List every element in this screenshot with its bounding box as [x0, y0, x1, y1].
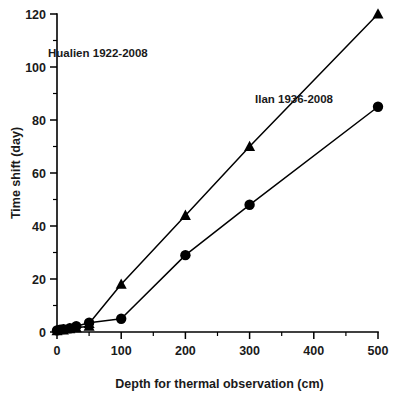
y-tick-label: 0: [39, 326, 46, 340]
series-annotation-ilan: Ilan 1936-2008: [255, 93, 334, 105]
y-axis-title: Time shift (day): [9, 127, 23, 219]
data-point-triangle: [372, 8, 383, 18]
chart-figure: 0204060801001200100200300400500 Ilan 193…: [0, 0, 395, 401]
series-line-circle: [57, 107, 378, 331]
y-tick-label: 40: [32, 220, 46, 234]
series-annotation-hualien: Hualien 1922-2008: [48, 47, 148, 59]
y-tick-label: 80: [32, 114, 46, 128]
x-tick-label: 400: [303, 344, 324, 358]
data-point-circle: [373, 102, 383, 112]
x-tick-label: 200: [175, 344, 196, 358]
y-tick-label: 60: [32, 167, 46, 181]
y-tick-label: 120: [25, 8, 46, 22]
x-tick-label: 300: [239, 344, 260, 358]
data-point-circle: [180, 250, 190, 260]
y-tick-label: 100: [25, 61, 46, 75]
data-point-circle: [116, 314, 126, 324]
data-point-circle: [84, 318, 94, 328]
x-tick-label: 100: [111, 344, 132, 358]
data-point-circle: [244, 200, 254, 210]
chart-plot-area: 0204060801001200100200300400500 Ilan 193…: [0, 0, 395, 401]
series-line-triangle: [57, 14, 378, 331]
x-axis-title: Depth for thermal observation (cm): [115, 377, 323, 391]
x-tick-label: 500: [368, 344, 389, 358]
y-tick-label: 20: [32, 273, 46, 287]
data-point-circle: [71, 321, 81, 331]
x-tick-label: 0: [54, 344, 61, 358]
